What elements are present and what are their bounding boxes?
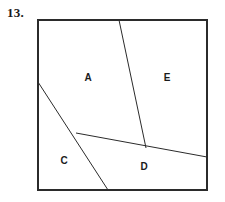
figure-container: 13. A E C D bbox=[0, 0, 225, 202]
region-label-e: E bbox=[164, 72, 171, 83]
region-label-c: C bbox=[60, 155, 67, 166]
geometry-figure: A E C D bbox=[0, 0, 225, 202]
region-label-d: D bbox=[140, 161, 147, 172]
region-label-a: A bbox=[84, 72, 91, 83]
